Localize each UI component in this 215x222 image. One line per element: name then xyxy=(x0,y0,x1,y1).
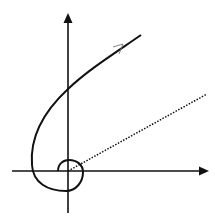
background xyxy=(0,0,215,222)
spiral-diagram xyxy=(0,0,215,222)
